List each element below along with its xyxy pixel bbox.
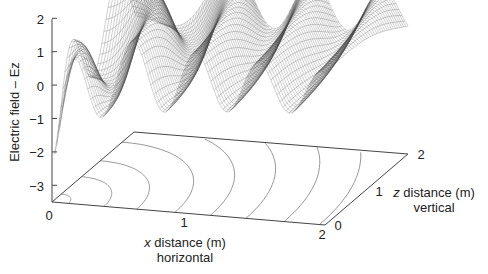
x-tick-0: 0 <box>45 208 52 223</box>
zdist-tick-0: 0 <box>334 218 341 233</box>
x-tick-1: 1 <box>180 215 187 230</box>
z-tick-0: 0 <box>37 79 44 94</box>
zdist-tick-1: 1 <box>375 184 382 199</box>
surface-plot: 2 1 0 −1 −2 −3 0 1 2 0 1 2 Electric fiel… <box>0 0 488 274</box>
z-tick-neg1: −1 <box>29 112 44 127</box>
floor-contours <box>61 139 361 224</box>
y-axis-title: z distance (m) <box>392 185 475 200</box>
surface-mesh <box>55 0 408 154</box>
z-axis-title: Electric field – Ez <box>7 62 22 162</box>
z-axis <box>52 18 57 202</box>
zdist-tick-2: 2 <box>417 147 424 162</box>
y-axis-subtitle: vertical <box>413 200 454 215</box>
z-tick-1: 1 <box>37 45 44 60</box>
x-axis-title: x distance (m) <box>143 235 226 250</box>
x-tick-2: 2 <box>318 227 325 242</box>
z-tick-neg2: −2 <box>29 145 44 160</box>
z-tick-neg3: −3 <box>29 179 44 194</box>
z-tick-labels: 2 1 0 −1 −2 −3 <box>29 12 44 194</box>
z-tick-2: 2 <box>37 12 44 27</box>
y-axis-text: distance (m) <box>400 185 475 200</box>
x-axis-text: distance (m) <box>151 235 226 250</box>
x-axis-subtitle: horizontal <box>157 250 213 265</box>
floor-frame <box>52 132 408 225</box>
